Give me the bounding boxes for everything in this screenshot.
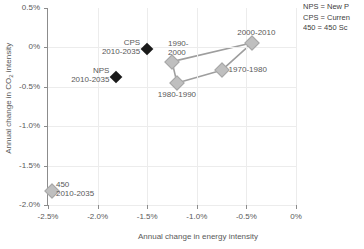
gridline-horizontal [48,205,296,206]
data-point-label: 1980-1990 [151,90,203,100]
x-axis-tickmark [197,205,198,209]
x-axis-tick-label: -0.5% [226,212,266,221]
x-axis-tickmark [296,205,297,209]
data-point-label: 1970-1980 [229,65,281,75]
gridline-vertical [147,8,148,205]
y-axis-tick-label: -1.0% [2,121,40,130]
gridline-vertical [246,8,247,205]
x-axis-tickmark [246,205,247,209]
y-axis-tick-label: 0.5% [2,3,40,12]
y-axis-tick-label: -1.5% [2,161,40,170]
data-point-label: CPS2010-2035 [84,38,140,57]
gridline-vertical [197,8,198,205]
data-point-label: 1990-2000 [168,39,220,58]
x-axis-tick-label: -2.5% [28,212,68,221]
gridline-horizontal [48,166,296,167]
x-axis-tick-label: -1.0% [177,212,217,221]
legend-line: CPS = Curren [303,13,364,24]
chart-container: Annual change in CO2 intensity Annual ch… [0,0,364,249]
data-point-label: 4502010-2035 [56,180,108,199]
x-axis-tickmark [98,205,99,209]
y-axis-tick-label: -0.5% [2,82,40,91]
y-axis-tickmark [44,87,48,88]
plot-area: 1970-19801980-19901990-20002000-2010CPS2… [48,8,296,205]
y-axis-tickmark [44,126,48,127]
y-axis-title-subscript: 2 [8,74,14,77]
legend-line: NPS = New P [303,2,364,13]
y-axis-tickmark [44,166,48,167]
legend-line: 450 = 450 Sc [303,23,364,34]
y-axis-tick-label: -2.0% [2,200,40,209]
x-axis-tick-label: -1.5% [127,212,167,221]
y-axis-tick-label: 0% [2,42,40,51]
data-point-label: NPS2010-2035 [53,66,109,85]
y-axis-tickmark [44,205,48,206]
y-axis-tickmark [44,8,48,9]
x-axis-tick-label: 0% [276,212,316,221]
gridline-vertical [296,8,297,205]
y-axis-title: Annual change in CO2 intensity [4,13,15,183]
data-point-label: 2000-2010 [230,28,282,38]
x-axis-tickmark [147,205,148,209]
y-axis-tickmark [44,47,48,48]
x-axis-tick-label: -2.0% [78,212,118,221]
legend: NPS = New PCPS = Curren450 = 450 Sc [303,2,364,34]
x-axis-title: Annual change in energy intensity [48,232,348,241]
gridline-horizontal [48,126,296,127]
x-axis-tickmark [48,205,49,209]
gridline-horizontal [48,87,296,88]
